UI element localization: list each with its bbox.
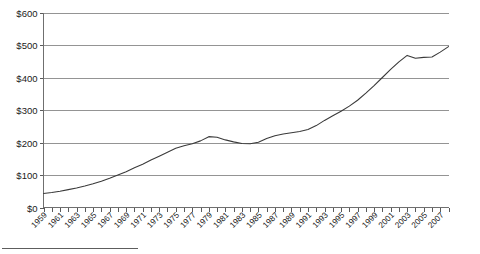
y-axis-tick-label: $400 (16, 73, 37, 84)
y-axis-tick-label: $200 (16, 138, 37, 149)
y-axis-tick-label: $100 (16, 170, 37, 181)
y-axis-tick-label: $500 (16, 40, 37, 51)
y-axis-tick-label: $300 (16, 105, 37, 116)
chart-canvas: $0$100$200$300$400$500$600 1959196119631… (0, 0, 480, 254)
line-chart: $0$100$200$300$400$500$600 1959196119631… (0, 0, 480, 254)
y-axis-tick-label: $600 (16, 8, 37, 19)
y-axis-tick-label: $0 (27, 203, 38, 214)
